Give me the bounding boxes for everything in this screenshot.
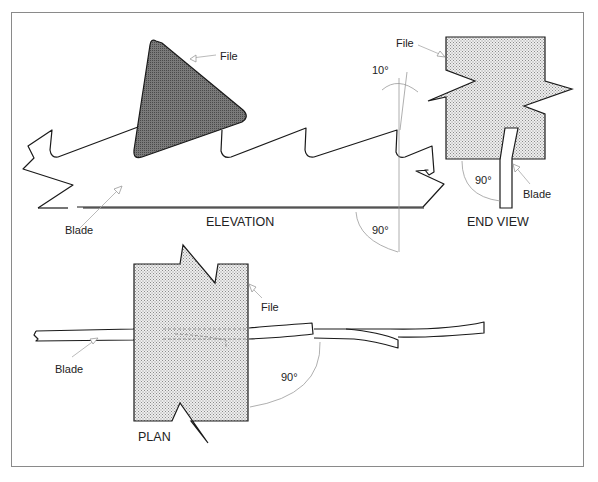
end-view-blade-label: Blade [523,188,551,200]
plan-blade-right [249,323,313,339]
elevation-tooth-angle-line [400,72,407,130]
plan-file [134,245,248,443]
elevation-blade-outline [23,127,444,208]
plan-title: PLAN [138,430,171,444]
elevation-file-arrow [190,55,196,62]
plan-blade-segment-2 [314,322,484,337]
elevation-angle-90: 90° [372,224,389,236]
saw-filing-diagram: File Blade 10° 90° ELEVATION File Blade … [0,0,598,482]
end-view-title: END VIEW [467,215,529,229]
elevation-blade-label: Blade [65,224,93,236]
end-view-file [428,37,572,159]
plan-blade-bent-tooth [314,329,398,348]
elevation-file-label: File [220,50,238,62]
plan-blade-leader [72,340,95,357]
elevation-title: ELEVATION [206,215,274,229]
end-view-file-label: File [396,37,414,49]
end-view-angle-90: 90° [475,174,492,186]
plan-blade-label: Blade [55,363,83,375]
end-view: File Blade 90° END VIEW [396,37,572,229]
end-view-file-arrow [437,51,445,57]
elevation-10deg-arc [382,83,418,92]
plan-angle-90: 90° [281,371,298,383]
elevation-angle-10: 10° [372,64,389,76]
plan-view: File Blade 90° PLAN [34,245,484,444]
elevation-view: File Blade 10° 90° ELEVATION [23,40,444,252]
plan-file-label: File [261,301,279,313]
